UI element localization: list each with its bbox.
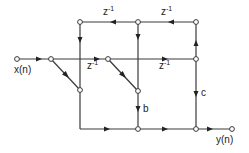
- arrow-right-icon: [36, 57, 42, 62]
- node-top-middle: [136, 20, 141, 25]
- node-low-1: [78, 88, 83, 93]
- node-a: [49, 57, 54, 62]
- node-right-middle: [194, 57, 199, 62]
- delay-label-mid-1: z-1: [87, 59, 98, 71]
- gain-c-label: c: [201, 87, 206, 98]
- node-top-right: [194, 20, 199, 25]
- arrowheads: [36, 20, 213, 132]
- arrow-down-icon: [136, 106, 141, 112]
- arrow-left-icon: [168, 20, 174, 25]
- arrow-right-icon: [104, 127, 110, 132]
- node-bottom-middle: [136, 127, 141, 132]
- output-label: y(n): [216, 134, 233, 145]
- node-top-left: [78, 20, 83, 25]
- node-bottom-right: [194, 127, 199, 132]
- node-low-2: [136, 89, 141, 94]
- delay-label-mid-2: z-1: [159, 59, 170, 71]
- arrow-left-icon: [110, 20, 116, 25]
- input-label: x(n): [14, 64, 31, 75]
- arrow-right-icon: [162, 127, 168, 132]
- arrow-right-icon: [207, 127, 213, 132]
- signal-flow-diagram: x(n) y(n) z-1 z-1 z-1 z-1 b c: [0, 0, 249, 153]
- gain-b-label: b: [143, 103, 149, 114]
- arrow-up-icon: [194, 40, 199, 46]
- output-node: [230, 127, 235, 132]
- arrow-down-icon: [78, 37, 83, 43]
- delay-label-top-2: z-1: [161, 5, 172, 17]
- node-b: [106, 57, 111, 62]
- delay-label-top-1: z-1: [103, 5, 114, 17]
- arrow-down-icon: [136, 34, 141, 40]
- arrow-down-icon: [194, 91, 199, 97]
- input-node: [15, 57, 20, 62]
